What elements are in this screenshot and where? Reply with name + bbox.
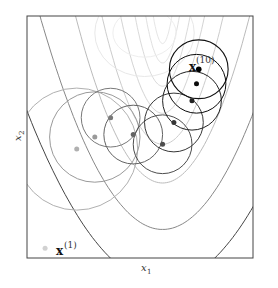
contour-line: [121, 0, 204, 44]
iterate-point-8: [189, 98, 194, 103]
iterate-point-7: [171, 120, 176, 125]
iterate-point-6: [160, 142, 165, 147]
iterate-point-1: [43, 246, 48, 251]
contour-line: [95, 0, 194, 77]
y-axis-label: x 2: [12, 131, 26, 141]
iterate-point-10: [196, 66, 202, 72]
trust-region-circles: [16, 40, 228, 210]
start-label-sup: (1): [64, 240, 77, 250]
iterate-point-4: [108, 115, 113, 120]
contour-lines: [0, 0, 277, 284]
contour-line: [4, 0, 278, 183]
iterate-point-3: [92, 135, 97, 140]
start-label-base: x: [56, 244, 64, 258]
svg-text:2: 2: [18, 131, 26, 135]
contour-figure: x (10) x (1) x 1 x 2: [0, 0, 277, 288]
x-axis-label: x 1: [141, 262, 151, 276]
iterate-points: [43, 66, 202, 250]
contour-line: [36, 0, 277, 144]
iterate-point-2: [74, 147, 79, 152]
contour-line: [62, 0, 262, 113]
svg-text:1: 1: [147, 268, 151, 276]
end-label-sup: (10): [196, 55, 214, 65]
iterate-point-5: [131, 132, 136, 137]
iterate-point-9: [194, 81, 199, 86]
contour-line: [0, 0, 277, 284]
